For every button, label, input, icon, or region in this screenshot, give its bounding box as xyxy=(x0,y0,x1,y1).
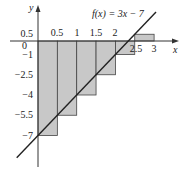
y-tick-label: 0.5 xyxy=(21,28,34,39)
chart-title: f(x) = 3x − 7 xyxy=(92,8,145,20)
y-axis-label: y xyxy=(28,2,34,13)
bar xyxy=(77,41,96,95)
bar xyxy=(38,41,57,136)
y-tick-labels: 0.50−1−2.5−4−5.5−7 xyxy=(15,28,33,141)
y-axis-arrow-icon xyxy=(36,5,41,12)
bar xyxy=(135,34,154,41)
x-tick-label: 1 xyxy=(75,27,80,38)
y-tick-label: −5.5 xyxy=(15,109,33,120)
y-tick-label: −1 xyxy=(22,49,33,60)
y-tick-label: −2.5 xyxy=(15,69,33,80)
x-axis-arrow-icon xyxy=(172,39,179,44)
x-tick-label: 2 xyxy=(113,27,118,38)
x-tick-label: 1.5 xyxy=(90,27,103,38)
y-tick-label: −4 xyxy=(22,89,33,100)
x-tick-label: 0.5 xyxy=(51,27,64,38)
x-tick-label: 3 xyxy=(152,43,157,54)
chart: y x f(x) = 3x − 7 0.511.522.53 0.50−1−2.… xyxy=(0,0,187,169)
y-tick-label: −7 xyxy=(22,130,33,141)
x-axis-label: x xyxy=(172,44,178,55)
x-tick-label: 2.5 xyxy=(130,43,143,54)
